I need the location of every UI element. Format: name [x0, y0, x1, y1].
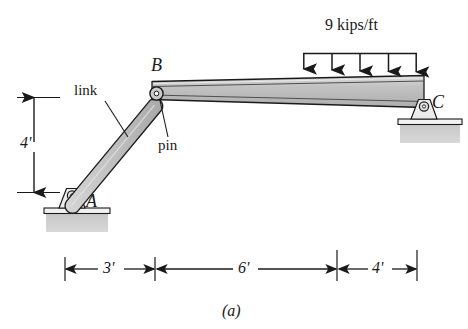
- dimension-label-height: 4': [20, 135, 31, 151]
- dimension-label-span-4ft: 4': [372, 260, 383, 276]
- distributed-load-label: 9 kips/ft: [325, 17, 378, 33]
- pin-joint-b: [150, 87, 163, 100]
- node-label-a: A: [86, 192, 97, 210]
- statics-figure: 9 kips/ft B C A link pin 4' 3' 6' 4' (a): [0, 0, 468, 329]
- callout-label-link: link: [74, 83, 97, 98]
- node-label-c: C: [432, 93, 444, 111]
- distributed-load-arrows: [303, 54, 417, 73]
- figure-canvas: [0, 0, 468, 329]
- link-leader-line: [105, 101, 128, 137]
- pin-leader-line: [160, 101, 168, 138]
- figure-caption: (a): [222, 303, 241, 319]
- dimension-label-span-3ft: 3': [103, 260, 114, 276]
- dimension-label-span-6ft: 6': [238, 260, 249, 276]
- callout-label-pin: pin: [158, 138, 177, 153]
- beam-member: [152, 76, 424, 108]
- node-label-b: B: [151, 56, 162, 74]
